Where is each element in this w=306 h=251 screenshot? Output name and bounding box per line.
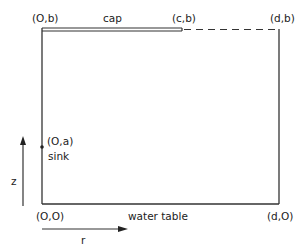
label-water-table: water table [128,210,188,222]
r-axis-arrow [42,226,128,232]
label-top-right: (d,b) [270,12,295,24]
label-r-axis: r [81,234,86,246]
label-bottom-left: (O,O) [36,210,64,222]
sink-point [40,145,44,149]
label-sink-point: (O,a) [47,135,73,147]
label-bottom-right: (d,O) [267,210,293,222]
label-top-left: (O,b) [32,12,58,24]
label-cap-end: (c,b) [172,12,196,24]
label-cap: cap [103,12,122,24]
cap [42,28,182,31]
label-sink: sink [48,150,70,162]
domain-diagram: (O,b) cap (c,b) (d,b) (O,a) sink z (O,O)… [0,0,306,251]
z-axis-arrow [20,136,26,206]
label-z-axis: z [11,175,17,187]
